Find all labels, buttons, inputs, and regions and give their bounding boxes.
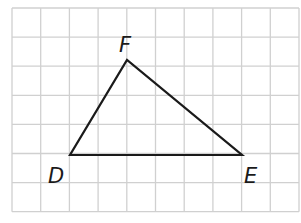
grid-diagram: F D E	[0, 0, 301, 223]
vertex-label-d: D	[48, 164, 64, 188]
vertex-label-e: E	[244, 164, 258, 188]
vertex-label-f: F	[119, 33, 132, 57]
